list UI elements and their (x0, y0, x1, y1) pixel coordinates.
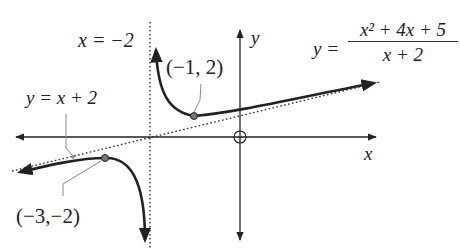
function-label-lhs: y = (313, 39, 339, 58)
leader-oblique-asymptote (66, 114, 73, 156)
function-denominator: x + 2 (348, 45, 458, 64)
graph-figure: x = −2 y = x + 2 (−1, 2) (−3,−2) y x y =… (0, 0, 460, 250)
leader-local-max (63, 161, 101, 196)
fraction-bar (348, 41, 458, 42)
point-local-min (191, 113, 198, 120)
leader-dot (71, 155, 75, 159)
point-local-max (102, 155, 109, 162)
x-axis-label: x (364, 144, 372, 163)
leader-local-min (194, 84, 201, 112)
y-axis-label: y (251, 28, 259, 47)
oblique-asymptote-label: y = x + 2 (26, 88, 97, 107)
local-max-label: (−3,−2) (16, 206, 80, 227)
function-numerator: x² + 4x + 5 (348, 20, 458, 39)
vertical-asymptote-label: x = −2 (78, 30, 134, 50)
local-min-label: (−1, 2) (166, 57, 223, 78)
function-label-fraction: x² + 4x + 5 x + 2 (348, 20, 458, 64)
